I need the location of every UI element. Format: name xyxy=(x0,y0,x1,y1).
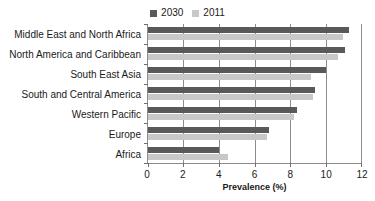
bar-2030[interactable] xyxy=(148,147,219,153)
chart-legend: 20302011 xyxy=(0,4,375,22)
x-axis-title: Prevalence (%) xyxy=(147,182,362,192)
x-axis-tick-label: 6 xyxy=(252,169,258,181)
x-axis-tick-label: 10 xyxy=(321,169,332,181)
square-icon xyxy=(192,10,199,17)
x-axis-tick-labels: 024681012 xyxy=(147,169,362,183)
bar-2011[interactable] xyxy=(148,134,267,140)
legend-label: 2011 xyxy=(203,8,225,18)
bar-group xyxy=(148,64,361,84)
y-axis-label: Middle East and North Africa xyxy=(0,24,145,44)
bar-2030[interactable] xyxy=(148,127,269,133)
x-axis-tick-label: 4 xyxy=(216,169,222,181)
bar-2030[interactable] xyxy=(148,47,345,53)
bar-2011[interactable] xyxy=(148,114,294,120)
bar-2030[interactable] xyxy=(148,67,326,73)
plot-area xyxy=(147,24,362,164)
bar-chart: 20302011 Middle East and North AfricaNor… xyxy=(0,0,375,201)
x-axis-tick xyxy=(183,163,184,167)
x-axis-tick-label: 8 xyxy=(288,169,294,181)
x-axis-tick xyxy=(255,163,256,167)
bar-2011[interactable] xyxy=(148,74,311,80)
legend-entry[interactable]: 2030 xyxy=(150,8,183,18)
legend-entry[interactable]: 2011 xyxy=(192,8,225,18)
bar-series-container xyxy=(148,24,361,163)
bar-2011[interactable] xyxy=(148,34,343,40)
y-axis-label: South and Central America xyxy=(0,84,145,104)
bar-group xyxy=(148,24,361,44)
bar-2030[interactable] xyxy=(148,27,349,33)
x-axis-tick xyxy=(326,163,327,167)
bar-group xyxy=(148,103,361,123)
y-axis-label: Europe xyxy=(0,124,145,144)
bar-group xyxy=(148,143,361,163)
bar-group xyxy=(148,84,361,104)
x-axis-tick xyxy=(361,163,362,167)
bar-2030[interactable] xyxy=(148,107,297,113)
legend-label: 2030 xyxy=(161,8,183,18)
x-axis-tick xyxy=(219,163,220,167)
gridline xyxy=(361,24,362,163)
x-axis-tick-label: 2 xyxy=(180,169,186,181)
plot-wrapper: Middle East and North AfricaNorth Americ… xyxy=(0,24,375,170)
bar-2011[interactable] xyxy=(148,154,228,160)
bar-group xyxy=(148,123,361,143)
x-axis-tick xyxy=(290,163,291,167)
bar-group xyxy=(148,44,361,64)
y-axis-label: Western Pacific xyxy=(0,104,145,124)
y-axis-label: Africa xyxy=(0,144,145,164)
y-axis-label: North America and Caribbean xyxy=(0,44,145,64)
y-axis-label: South East Asia xyxy=(0,64,145,84)
square-icon xyxy=(150,10,157,17)
x-axis-tick-label: 12 xyxy=(356,169,367,181)
bar-2011[interactable] xyxy=(148,54,338,60)
bar-2030[interactable] xyxy=(148,87,315,93)
y-axis-category-labels: Middle East and North AfricaNorth Americ… xyxy=(0,24,145,164)
x-axis-tick-label: 0 xyxy=(144,169,150,181)
bar-2011[interactable] xyxy=(148,94,313,100)
x-axis-tick xyxy=(148,163,149,167)
